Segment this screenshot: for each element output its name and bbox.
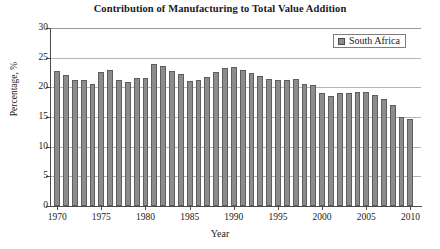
bar-1978 — [125, 82, 131, 206]
bar-1975 — [98, 72, 104, 206]
bar-1980 — [143, 78, 149, 206]
chart-figure: Contribution of Manufacturing to Total V… — [0, 0, 440, 249]
plot-area — [51, 28, 421, 206]
x-tick-label-1985: 1985 — [170, 212, 210, 222]
chart-legend: South Africa — [333, 34, 406, 48]
gridline-y-30 — [51, 28, 421, 29]
bar-2000 — [319, 93, 325, 206]
y-axis-label: Percentage, % — [9, 29, 19, 149]
chart-title: Contribution of Manufacturing to Total V… — [0, 3, 440, 14]
bar-1991 — [240, 70, 246, 206]
x-tick-1980 — [145, 206, 146, 210]
legend-swatch-icon — [338, 38, 345, 45]
x-tick-1975 — [101, 206, 102, 210]
x-tick-2010 — [410, 206, 411, 210]
bar-1976 — [107, 70, 113, 206]
x-tick-1985 — [190, 206, 191, 210]
bar-1982 — [160, 66, 166, 206]
bar-1985 — [187, 81, 193, 206]
x-axis-label: Year — [0, 228, 440, 239]
gridline-y-25 — [51, 58, 421, 59]
x-tick-label-2005: 2005 — [346, 212, 386, 222]
x-tick-label-1970: 1970 — [37, 212, 77, 222]
bar-2005 — [363, 92, 369, 206]
y-tick-label-25: 25 — [39, 53, 49, 63]
y-tick-label-5: 5 — [43, 171, 48, 181]
x-tick-2000 — [322, 206, 323, 210]
bar-1989 — [222, 68, 228, 206]
bar-1979 — [134, 78, 140, 206]
x-tick-label-1995: 1995 — [258, 212, 298, 222]
bar-2002 — [337, 93, 343, 206]
y-tick-label-20: 20 — [39, 82, 49, 92]
bar-1990 — [231, 67, 237, 206]
bar-1998 — [302, 84, 308, 206]
bar-1984 — [178, 74, 184, 206]
bar-1981 — [151, 64, 157, 206]
bar-2007 — [381, 99, 387, 206]
legend-item-label: South Africa — [349, 36, 400, 46]
bar-1992 — [249, 73, 255, 206]
bar-2006 — [372, 95, 378, 206]
x-tick-1970 — [57, 206, 58, 210]
y-tick-label-15: 15 — [39, 112, 49, 122]
bar-1971 — [63, 75, 69, 206]
bar-1977 — [116, 80, 122, 206]
bar-1986 — [196, 80, 202, 206]
bar-1993 — [257, 76, 263, 206]
bar-2010 — [407, 119, 413, 206]
x-tick-1990 — [234, 206, 235, 210]
bar-1970 — [54, 71, 60, 206]
bar-2009 — [399, 117, 405, 206]
bar-1997 — [293, 79, 299, 206]
bar-1988 — [213, 72, 219, 206]
y-tick-label-30: 30 — [39, 23, 49, 33]
bar-2003 — [346, 93, 352, 206]
x-tick-label-2010: 2010 — [390, 212, 430, 222]
x-tick-2005 — [366, 206, 367, 210]
x-tick-label-2000: 2000 — [302, 212, 342, 222]
bar-2008 — [390, 105, 396, 206]
bar-1987 — [204, 77, 210, 206]
x-tick-1995 — [278, 206, 279, 210]
bar-1995 — [275, 80, 281, 206]
bar-1996 — [284, 80, 290, 206]
y-tick-label-10: 10 — [39, 142, 49, 152]
bar-1999 — [310, 85, 316, 206]
y-tick-label-0: 0 — [43, 201, 48, 211]
x-tick-label-1990: 1990 — [214, 212, 254, 222]
x-tick-label-1975: 1975 — [81, 212, 121, 222]
bar-1973 — [81, 80, 87, 206]
bar-1983 — [169, 71, 175, 206]
bar-2001 — [328, 96, 334, 206]
bar-2004 — [355, 92, 361, 206]
x-tick-label-1980: 1980 — [125, 212, 165, 222]
bar-1974 — [90, 84, 96, 206]
bar-1972 — [72, 80, 78, 206]
bar-1994 — [266, 79, 272, 206]
